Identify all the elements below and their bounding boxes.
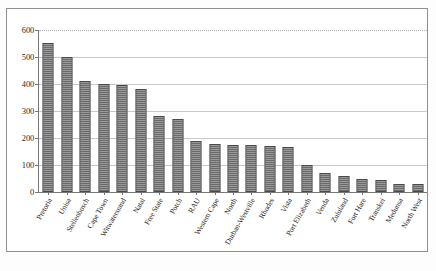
bar bbox=[338, 176, 349, 192]
x-axis-label: Vista bbox=[280, 197, 294, 214]
bar bbox=[135, 89, 146, 192]
x-label-slot: Witwatersrand bbox=[112, 195, 130, 259]
bar bbox=[172, 119, 183, 192]
y-tick-mark-100 bbox=[35, 165, 38, 166]
bar-slot bbox=[39, 30, 57, 192]
x-label-slot: Port Elizabeth bbox=[297, 195, 315, 259]
bar bbox=[154, 116, 165, 192]
bar-slot bbox=[261, 30, 279, 192]
bar-slot bbox=[242, 30, 260, 192]
bar-slot bbox=[57, 30, 75, 192]
x-label-slot: Western Cape bbox=[204, 195, 222, 259]
x-axis-label: RAU bbox=[187, 197, 201, 214]
bar bbox=[320, 173, 331, 192]
y-tick-label-300: 300 bbox=[8, 107, 34, 116]
y-tick-mark-200 bbox=[35, 138, 38, 139]
y-tick-label-600: 600 bbox=[8, 26, 34, 35]
y-tick-label-100: 100 bbox=[8, 161, 34, 170]
y-tick-mark-300 bbox=[35, 111, 38, 112]
x-axis-label: Venda bbox=[315, 197, 331, 217]
plot-area bbox=[38, 30, 427, 193]
bar-slot bbox=[409, 30, 427, 192]
bar-slot bbox=[205, 30, 223, 192]
bar-slot bbox=[168, 30, 186, 192]
bar-slot bbox=[298, 30, 316, 192]
y-tick-mark-500 bbox=[35, 57, 38, 58]
bar-slot bbox=[187, 30, 205, 192]
bar bbox=[246, 145, 257, 192]
bar bbox=[412, 184, 423, 192]
y-tick-mark-400 bbox=[35, 84, 38, 85]
y-tick-label-200: 200 bbox=[8, 134, 34, 143]
bar bbox=[283, 147, 294, 192]
bar-slot bbox=[76, 30, 94, 192]
bar bbox=[227, 145, 238, 192]
bar bbox=[209, 144, 220, 192]
bar bbox=[375, 180, 386, 192]
bar-slot bbox=[150, 30, 168, 192]
x-label-slot: Free State bbox=[149, 195, 167, 259]
bar bbox=[264, 146, 275, 192]
x-axis-label: Rhodes bbox=[258, 197, 276, 220]
bar bbox=[301, 165, 312, 192]
bar-slot bbox=[316, 30, 334, 192]
bar-slot bbox=[224, 30, 242, 192]
x-label-slot: North West bbox=[408, 195, 426, 259]
x-label-slot: Fort Hare bbox=[352, 195, 370, 259]
x-axis-label: Potch bbox=[168, 197, 183, 215]
x-axis-labels: PretoriaUnisaStellenboschCape TownWitwat… bbox=[38, 195, 427, 259]
bar-slot bbox=[390, 30, 408, 192]
x-axis-label: Pretoria bbox=[36, 197, 54, 221]
bar bbox=[80, 81, 91, 192]
y-tick-label-400: 400 bbox=[8, 80, 34, 89]
bar-series bbox=[39, 30, 427, 192]
bar bbox=[394, 184, 405, 192]
bar-slot bbox=[335, 30, 353, 192]
x-axis-label: Natal bbox=[132, 197, 147, 215]
bar bbox=[61, 57, 72, 192]
x-axis-label: North bbox=[223, 197, 238, 216]
chart-frame: 0100200300400500600 PretoriaUnisaStellen… bbox=[6, 8, 428, 252]
bar-slot bbox=[372, 30, 390, 192]
bar bbox=[191, 141, 202, 192]
x-axis-label: Unisa bbox=[57, 197, 72, 216]
bar bbox=[117, 85, 128, 192]
chart-figure: 0100200300400500600 PretoriaUnisaStellen… bbox=[0, 0, 436, 271]
bar bbox=[357, 179, 368, 192]
bar-slot bbox=[279, 30, 297, 192]
x-label-slot: Rhodes bbox=[260, 195, 278, 259]
bar-slot bbox=[131, 30, 149, 192]
y-tick-label-500: 500 bbox=[8, 53, 34, 62]
y-tick-mark-0 bbox=[35, 192, 38, 193]
y-tick-label-0: 0 bbox=[8, 188, 34, 197]
x-label-slot: Durban-Westville bbox=[241, 195, 259, 259]
x-label-slot: Venda bbox=[315, 195, 333, 259]
x-label-slot: Potch bbox=[167, 195, 185, 259]
x-label-slot: Pretoria bbox=[38, 195, 56, 259]
y-tick-mark-600 bbox=[35, 30, 38, 31]
x-label-slot: Natal bbox=[130, 195, 148, 259]
bar bbox=[98, 84, 109, 192]
bar-slot bbox=[94, 30, 112, 192]
bar bbox=[43, 43, 54, 192]
bar-slot bbox=[353, 30, 371, 192]
x-label-slot: Zululand bbox=[334, 195, 352, 259]
bar-slot bbox=[113, 30, 131, 192]
x-label-slot: Transkei bbox=[371, 195, 389, 259]
